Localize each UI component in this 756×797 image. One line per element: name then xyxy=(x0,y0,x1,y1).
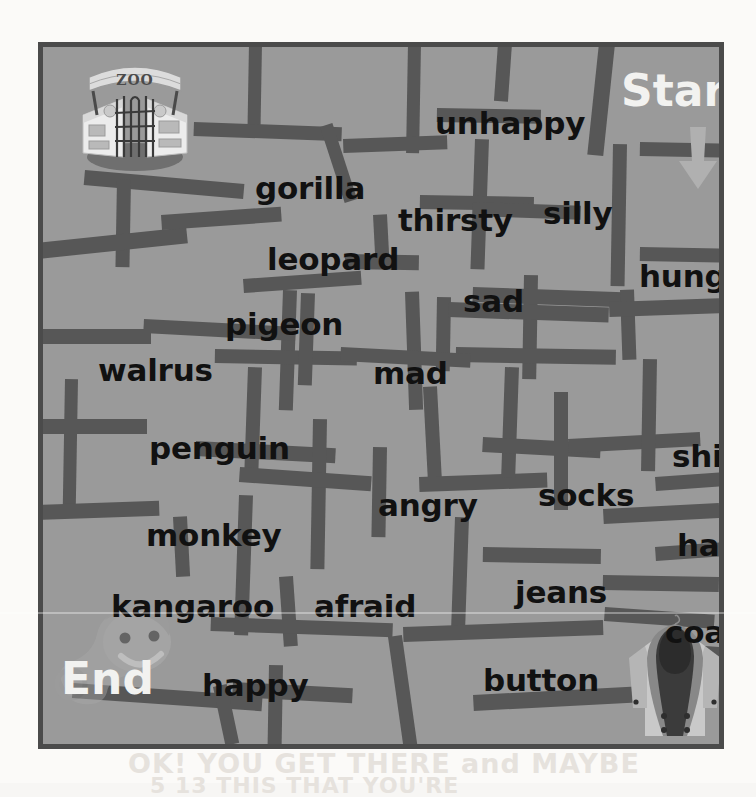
maze-wall xyxy=(587,43,615,156)
down-arrow-icon xyxy=(677,127,719,189)
maze-wall xyxy=(38,227,188,259)
maze-wall xyxy=(38,419,147,434)
showthrough-text-line2: 5 13 THIS THAT YOU'RE xyxy=(150,773,459,797)
maze-wall xyxy=(501,367,519,477)
maze-inner: ZOO xyxy=(43,47,719,744)
maze-word[interactable]: penguin xyxy=(149,430,290,466)
maze-word[interactable]: coat xyxy=(665,614,724,650)
maze-wall xyxy=(115,179,131,267)
maze-word[interactable]: shirt xyxy=(672,438,724,474)
maze-wall xyxy=(194,122,342,141)
maze-wall xyxy=(39,329,151,344)
start-label: Start xyxy=(621,65,724,116)
maze-wall xyxy=(494,43,512,102)
maze-wall xyxy=(84,170,245,199)
maze-wall xyxy=(423,386,442,487)
maze-word[interactable]: happy xyxy=(202,667,309,703)
maze-word[interactable]: hungry xyxy=(639,258,724,294)
maze-wall xyxy=(388,635,417,746)
maze-wall xyxy=(343,135,447,153)
maze-wall xyxy=(609,298,719,317)
word-maze-board: ZOO xyxy=(38,42,724,749)
maze-wall xyxy=(161,207,282,230)
maze-wall xyxy=(603,575,719,592)
svg-text:ZOO: ZOO xyxy=(116,72,154,88)
maze-word[interactable]: silly xyxy=(543,195,613,231)
maze-word[interactable]: walrus xyxy=(98,352,213,388)
maze-wall xyxy=(641,359,657,471)
maze-wall xyxy=(451,517,469,627)
maze-word[interactable]: angry xyxy=(378,487,478,523)
maze-wall xyxy=(403,620,603,642)
maze-word[interactable]: afraid xyxy=(314,588,416,624)
end-label: End xyxy=(61,653,154,704)
maze-word[interactable]: hat xyxy=(677,527,724,563)
zoo-gate-illustration: ZOO xyxy=(67,53,203,173)
maze-word[interactable]: mad xyxy=(373,355,448,391)
maze-word[interactable]: button xyxy=(483,662,599,698)
maze-wall xyxy=(310,419,327,569)
maze-wall xyxy=(215,349,357,365)
maze-word[interactable]: sad xyxy=(463,283,524,319)
maze-wall xyxy=(611,144,627,286)
maze-word[interactable]: socks xyxy=(538,477,634,513)
maze-wall xyxy=(38,501,159,520)
maze-word[interactable]: kangaroo xyxy=(111,588,274,624)
maze-wall xyxy=(655,472,724,491)
scan-artifact-line xyxy=(0,612,756,614)
maze-word[interactable]: jeans xyxy=(515,574,607,610)
maze-word[interactable]: gorilla xyxy=(255,170,365,206)
maze-word[interactable]: unhappy xyxy=(435,105,585,141)
maze-word[interactable]: leopard xyxy=(267,241,399,277)
maze-wall xyxy=(239,467,372,491)
maze-word[interactable]: thirsty xyxy=(398,202,513,238)
maze-word[interactable]: monkey xyxy=(146,517,282,553)
maze-wall xyxy=(483,547,601,564)
maze-wall xyxy=(247,43,262,135)
maze-word[interactable]: pigeon xyxy=(225,306,343,342)
maze-wall xyxy=(620,290,636,360)
maze-wall xyxy=(456,347,616,365)
maze-wall xyxy=(63,379,78,507)
